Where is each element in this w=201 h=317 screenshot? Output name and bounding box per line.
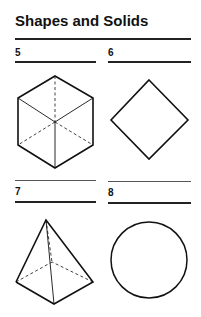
- diamond-icon: [111, 80, 188, 159]
- cube-icon: [18, 76, 93, 168]
- circle-icon: [111, 222, 187, 298]
- pyramid-icon: [16, 220, 93, 304]
- shapes-drawing: [0, 0, 201, 317]
